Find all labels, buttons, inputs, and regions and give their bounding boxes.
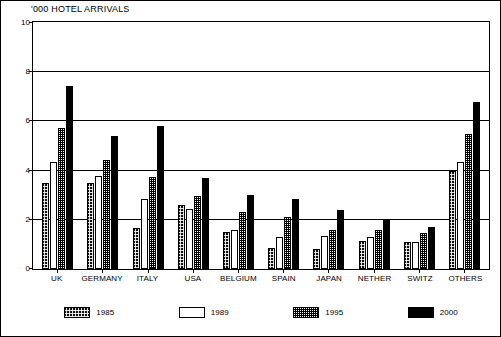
- bar: [95, 176, 102, 269]
- bar: [66, 86, 73, 269]
- chart-title: '000 HOTEL ARRIVALS: [31, 4, 130, 14]
- bar: [367, 237, 374, 269]
- bar: [133, 228, 140, 269]
- bar-group: [442, 22, 487, 269]
- x-axis-label-spain: SPAIN: [261, 272, 306, 286]
- chart-figure: '000 HOTEL ARRIVALS 0246810 UKGERMANYITA…: [0, 0, 501, 337]
- bar: [383, 219, 390, 269]
- bar: [50, 162, 57, 269]
- x-axis-label-usa: USA: [170, 272, 215, 286]
- bar: [247, 195, 254, 269]
- bar: [284, 217, 291, 269]
- bar-group: [216, 22, 261, 269]
- chart-legend: 1985198919952000: [32, 301, 490, 323]
- legend-item-1989[interactable]: 1989: [179, 307, 229, 318]
- bar: [58, 128, 65, 269]
- legend-swatch-2000: [408, 307, 434, 318]
- bar: [457, 162, 464, 269]
- x-axis-label-uk: UK: [34, 272, 79, 286]
- bar: [202, 178, 209, 269]
- x-axis-labels: UKGERMANYITALYUSABELGIUMSPAINJAPANNETHER…: [32, 272, 490, 286]
- bar: [268, 248, 275, 269]
- bar: [420, 233, 427, 269]
- bar: [87, 183, 94, 269]
- bar: [321, 236, 328, 269]
- bar-group: [306, 22, 351, 269]
- bar-group: [80, 22, 125, 269]
- x-axis-label-switz: SWITZ: [397, 272, 442, 286]
- x-axis-label-germany: GERMANY: [79, 272, 124, 286]
- bar: [329, 230, 336, 269]
- bar: [42, 183, 49, 269]
- legend-item-1995[interactable]: 1995: [293, 307, 343, 318]
- x-axis-label-japan: JAPAN: [306, 272, 351, 286]
- bar: [313, 249, 320, 269]
- bar-group: [125, 22, 170, 269]
- bar: [359, 241, 366, 269]
- legend-item-2000[interactable]: 2000: [408, 307, 458, 318]
- bar: [157, 126, 164, 269]
- x-axis-label-others: OTHERS: [443, 272, 488, 286]
- legend-swatch-1985: [64, 307, 90, 318]
- legend-label-1995: 1995: [325, 308, 343, 317]
- legend-label-1985: 1985: [96, 308, 114, 317]
- bar: [276, 237, 283, 269]
- x-axis-label-italy: ITALY: [125, 272, 170, 286]
- bar-group: [351, 22, 396, 269]
- bar: [473, 102, 480, 269]
- legend-label-1989: 1989: [211, 308, 229, 317]
- bar: [186, 209, 193, 269]
- bar: [149, 177, 156, 269]
- bar: [292, 199, 299, 269]
- bar-group: [261, 22, 306, 269]
- bar: [178, 205, 185, 269]
- legend-swatch-1995: [293, 307, 319, 318]
- legend-swatch-1989: [179, 307, 205, 318]
- bar-group: [35, 22, 80, 269]
- bar: [428, 227, 435, 269]
- bar-group: [397, 22, 442, 269]
- bar: [449, 171, 456, 269]
- x-axis-label-nether: NETHER: [352, 272, 397, 286]
- bar: [194, 196, 201, 269]
- x-axis-label-belgium: BELGIUM: [216, 272, 261, 286]
- legend-label-2000: 2000: [440, 308, 458, 317]
- bar-groups: [33, 22, 489, 269]
- bar-group: [171, 22, 216, 269]
- bar: [239, 212, 246, 269]
- bar: [412, 242, 419, 269]
- bar: [375, 230, 382, 269]
- bar: [111, 136, 118, 269]
- bar: [223, 232, 230, 269]
- bar: [231, 230, 238, 269]
- legend-item-1985[interactable]: 1985: [64, 307, 114, 318]
- bar: [103, 160, 110, 269]
- bar: [465, 134, 472, 269]
- bar: [404, 242, 411, 269]
- plot-area: 0246810: [32, 21, 490, 270]
- bar: [337, 210, 344, 269]
- bar: [141, 199, 148, 269]
